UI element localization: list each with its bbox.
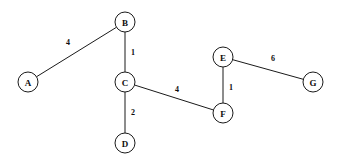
- node-label-g: G: [309, 78, 316, 88]
- node-label-c: C: [122, 78, 129, 88]
- node-label-d: D: [122, 139, 129, 149]
- nodes-layer: ABCDEFG: [18, 12, 323, 153]
- graph-node-a: A: [18, 72, 38, 92]
- node-label-f: F: [220, 109, 226, 119]
- graph-node-f: F: [213, 103, 233, 123]
- edge-weight-c-d: 2: [131, 108, 135, 117]
- graph-edge-a-b: [37, 27, 117, 76]
- edges-layer: [37, 27, 304, 133]
- graph-node-e: E: [213, 47, 233, 67]
- graph-edge-c-f: [135, 85, 214, 110]
- graph-node-d: D: [115, 133, 135, 153]
- edge-weight-a-b: 4: [66, 38, 70, 47]
- node-label-b: B: [122, 18, 128, 28]
- graph-canvas: ABCDEFG 412416: [0, 0, 344, 162]
- node-label-a: A: [25, 78, 32, 88]
- weighted-graph-figure: ABCDEFG 412416: [0, 0, 344, 162]
- edge-weights-layer: 412416: [66, 38, 275, 117]
- graph-node-b: B: [115, 12, 135, 32]
- graph-node-g: G: [303, 72, 323, 92]
- node-label-e: E: [220, 53, 226, 63]
- graph-edge-e-g: [233, 60, 304, 80]
- graph-node-c: C: [115, 72, 135, 92]
- edge-weight-e-f: 1: [229, 83, 233, 92]
- edge-weight-b-c: 1: [131, 48, 135, 57]
- edge-weight-c-f: 4: [175, 85, 179, 94]
- edge-weight-e-g: 6: [271, 54, 275, 63]
